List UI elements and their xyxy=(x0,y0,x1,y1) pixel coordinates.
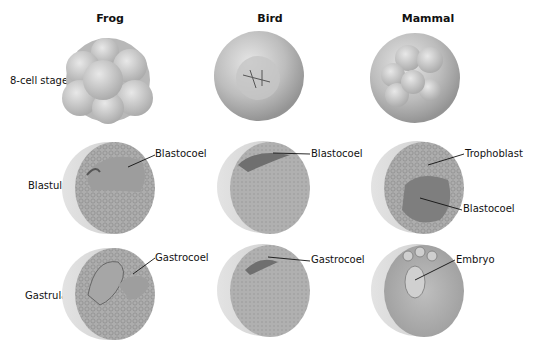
bird-gastrula xyxy=(217,244,310,337)
frog-8-cell xyxy=(62,38,153,124)
embryo-illustrations xyxy=(0,0,540,347)
label-bird-blastocoel: Blastocoel xyxy=(311,148,363,159)
mammal-blastula xyxy=(371,141,464,234)
label-frog-gastrocoel: Gastrocoel xyxy=(155,252,209,263)
label-mammal-embryo: Embryo xyxy=(456,254,495,265)
label-frog-blastocoel: Blastocoel xyxy=(155,148,207,159)
bird-8-cell xyxy=(214,31,304,121)
bird-blastula xyxy=(217,141,310,234)
label-mammal-trophoblast: Trophoblast xyxy=(465,148,523,159)
label-bird-gastrocoel: Gastrocoel xyxy=(311,254,365,265)
frog-gastrula xyxy=(62,248,155,340)
frog-blastula xyxy=(62,142,155,234)
mammal-8-cell xyxy=(370,33,460,123)
mammal-gastrula xyxy=(371,244,464,337)
label-mammal-blastocoel: Blastocoel xyxy=(463,203,515,214)
